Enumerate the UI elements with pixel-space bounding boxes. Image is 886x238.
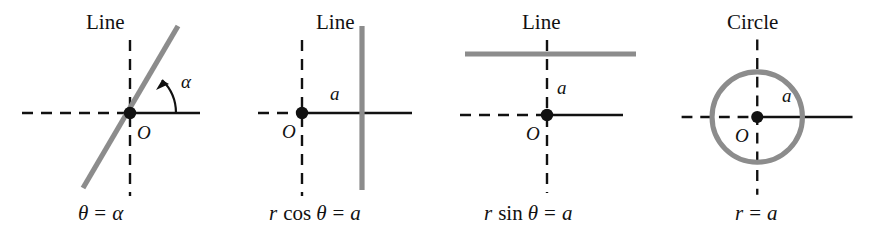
equation-equals: =: [333, 201, 345, 225]
panel-title: Line: [316, 12, 354, 33]
equation-equals: =: [94, 201, 106, 225]
equation-lhs: r: [484, 201, 492, 225]
panel-line-r-sin-theta: Line O a rsinθ=a: [440, 0, 662, 238]
origin-label: O: [137, 123, 151, 142]
panel-title: Line: [522, 12, 560, 33]
panel-equation: r=a: [735, 203, 778, 224]
origin-dot: [751, 111, 763, 123]
equation-rhs: α: [112, 201, 123, 225]
equation-function: sin: [498, 201, 523, 225]
polar-equations-figure: Line O α θ=α Line O a rcosθ=a: [0, 0, 886, 238]
equation-equals: =: [544, 201, 556, 225]
panel-title: Circle: [727, 12, 778, 33]
dimension-label: a: [330, 84, 340, 103]
origin-dot: [124, 107, 136, 119]
equation-variable: θ: [316, 201, 326, 225]
panel-equation: rsinθ=a: [484, 203, 572, 224]
origin-label: O: [526, 124, 540, 143]
equation-equals: =: [749, 201, 761, 225]
equation-rhs: a: [767, 201, 778, 225]
equation-lhs: θ: [78, 201, 88, 225]
dimension-label: a: [557, 78, 567, 97]
equation-lhs: r: [735, 201, 743, 225]
panel-equation: rcosθ=a: [269, 203, 361, 224]
angle-label: α: [181, 72, 191, 91]
dimension-label: a: [782, 86, 792, 105]
origin-label: O: [735, 126, 749, 145]
panel-line-theta-alpha: Line O α θ=α: [0, 0, 222, 238]
equation-rhs: a: [350, 201, 361, 225]
equation-lhs: r: [269, 201, 277, 225]
panel-equation: θ=α: [78, 203, 123, 224]
origin-dot: [541, 109, 553, 121]
panel-line-r-cos-theta: Line O a rcosθ=a: [220, 0, 442, 238]
equation-function: cos: [283, 201, 311, 225]
panel-circle-r-equals-a: Circle O a r=a: [660, 0, 882, 238]
equation-rhs: a: [562, 201, 573, 225]
origin-dot: [296, 107, 308, 119]
panel-title: Line: [86, 12, 124, 33]
equation-variable: θ: [528, 201, 538, 225]
origin-label: O: [282, 122, 296, 141]
